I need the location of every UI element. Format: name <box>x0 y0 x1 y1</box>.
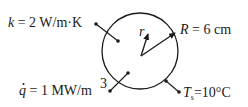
q-leader-line <box>110 73 128 91</box>
k-label: k = 2 W/m·K <box>8 15 82 30</box>
R-value: = 6 cm <box>189 22 232 37</box>
q-symbol: q <box>19 83 26 98</box>
k-leader-dot-outer <box>94 22 98 26</box>
R-symbol: R <box>179 22 189 37</box>
ts-value: =10°C <box>194 85 231 100</box>
ts-leader-line <box>166 81 179 92</box>
R-label: R = 6 cm <box>179 22 231 37</box>
svg-text:q = 1 MW/m: q = 1 MW/m <box>19 83 92 98</box>
radius-R-arrow <box>141 33 175 56</box>
q-label: q = 1 MW/m 3 <box>19 76 107 98</box>
k-value: = 2 W/m·K <box>14 15 82 30</box>
q-leader-dot-outer <box>108 89 112 93</box>
sphere-diagram: k = 2 W/m·K R = 6 cm r q = 1 MW/m 3 Ts=1… <box>0 0 248 107</box>
k-leader-line <box>96 24 118 41</box>
q-exponent: 3 <box>100 76 107 91</box>
ts-leader-dot-outer <box>177 90 181 94</box>
q-dot-accent <box>23 83 25 85</box>
q-value: = 1 MW/m <box>26 83 92 98</box>
ts-label: Ts=10°C <box>183 85 231 102</box>
r-label: r <box>139 24 145 39</box>
k-leader-dot-inner <box>116 39 120 43</box>
q-leader-dot-inner <box>126 71 130 75</box>
ts-leader-dot-surface <box>164 79 168 83</box>
